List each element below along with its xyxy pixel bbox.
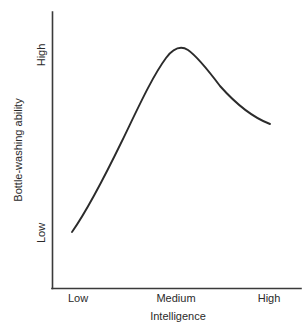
x-tick-label-low: Low	[68, 292, 88, 305]
y-axis-title: Bottle-washing ability	[12, 98, 25, 201]
x-tick-label-high: High	[258, 292, 281, 305]
x-tick-label-medium: Medium	[156, 292, 195, 305]
data-curve-bottle-washing-ability	[72, 48, 270, 232]
x-axis-title: Intelligence	[150, 310, 206, 323]
y-tick-label-low: Low	[35, 223, 48, 243]
y-tick-label-high: High	[35, 44, 48, 67]
chart-figure: High Low Bottle-washing ability Low Medi…	[0, 0, 308, 332]
